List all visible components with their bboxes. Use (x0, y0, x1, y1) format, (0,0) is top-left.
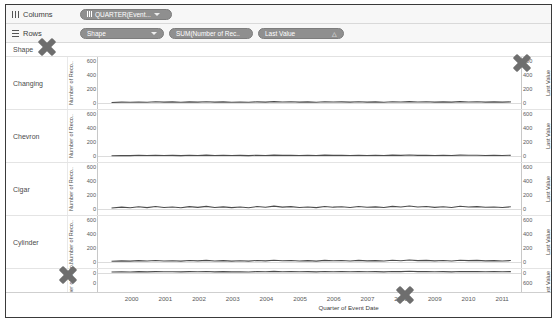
x-axis-ticks: 2000200120022003200420052006200720082009… (98, 295, 519, 304)
left-axis-partial[interactable]: Number of Reco.. 0 0 400 (68, 269, 98, 292)
right-axis-title: Last Value (545, 176, 551, 202)
x-axis-tick: 2001 (158, 295, 172, 302)
left-axis-title: Number of Reco.. (68, 262, 74, 292)
axis-tick: 0 (78, 280, 96, 286)
axis-tick: 400 (78, 178, 96, 184)
left-axis-ticks: 600 400 200 0 (78, 163, 96, 215)
x-axis-title: Quarter of Event Date (98, 304, 519, 311)
x-axis-title-text: Quarter of Event Date (318, 304, 378, 311)
left-axis-title: Number of Reco.. (68, 220, 74, 264)
tableau-worksheet: Columns QUARTER(Event... Rows Shape SUM(… (0, 0, 558, 329)
right-axis-changing[interactable]: Last Value 600 400 200 0 (521, 57, 551, 109)
quarter-event-date-pill[interactable]: QUARTER(Event... (80, 9, 172, 20)
left-axis-ticks: 600 400 200 0 (78, 110, 96, 162)
left-axis-cylinder[interactable]: Number of Reco.. 600 400 200 0 (68, 216, 98, 268)
right-axis-ticks: 600 400 200 0 (523, 110, 541, 162)
chevron-down-icon[interactable] (151, 32, 157, 35)
axis-tick: 0 (523, 153, 541, 159)
x-axis-tick: 2000 (125, 295, 139, 302)
line-series-chevron (98, 110, 521, 162)
row-header-changing[interactable]: Changing (6, 57, 68, 109)
x-axis[interactable]: 2000200120022003200420052006200720082009… (6, 292, 551, 317)
row-header-partial[interactable] (6, 269, 68, 292)
shape-field-header[interactable]: Shape (6, 46, 75, 53)
worksheet-frame: Columns QUARTER(Event... Rows Shape SUM(… (5, 4, 552, 318)
axis-tick: 200 (78, 139, 96, 145)
sum-number-of-records-pill-label: SUM(Number of Rec.. (176, 30, 240, 37)
left-axis-title: Number of Reco.. (68, 167, 74, 211)
line-series-changing (98, 57, 521, 109)
axis-tick: 400 (523, 125, 541, 131)
plot-changing[interactable] (98, 57, 521, 109)
rows-label-text: Rows (23, 29, 42, 38)
x-axis-tick: 2011 (496, 295, 509, 302)
left-axis-title: Number of Reco.. (68, 114, 74, 158)
right-axis-cigar[interactable]: Last Value 600 400 200 0 (521, 163, 551, 215)
axis-tick: 200 (78, 192, 96, 198)
right-axis-ticks: 0 600 400 (523, 269, 541, 292)
axis-tick: 400 (78, 231, 96, 237)
x-axis-tick: 2007 (361, 295, 375, 302)
shape-pill[interactable]: Shape (80, 28, 164, 39)
axis-tick: 0 (78, 153, 96, 159)
line-series-cigar (98, 163, 521, 215)
plot-partial[interactable] (98, 269, 521, 292)
plot-cigar[interactable] (98, 163, 521, 215)
axis-tick: 0 (523, 270, 541, 276)
pill-grip-icon (87, 11, 92, 17)
left-axis-ticks: 600 400 200 0 (78, 57, 96, 109)
axis-tick: 0 (523, 206, 541, 212)
axis-tick: 400 (523, 231, 541, 237)
axis-tick: 0 (78, 270, 96, 276)
right-axis-title: Last Value (545, 123, 551, 149)
warning-triangle-icon[interactable]: △ (332, 30, 337, 37)
pane-row-cigar: Cigar Number of Reco.. 600 400 200 0 (6, 163, 551, 216)
left-axis-cigar[interactable]: Number of Reco.. 600 400 200 0 (68, 163, 98, 215)
axis-tick: 400 (523, 72, 541, 78)
plot-cylinder[interactable] (98, 216, 521, 268)
columns-grip-icon (12, 11, 19, 18)
sum-number-of-records-pill[interactable]: SUM(Number of Rec.. (169, 28, 253, 39)
x-axis-tick: 2009 (428, 295, 442, 302)
axis-tick: 200 (523, 139, 541, 145)
axis-tick: 200 (523, 192, 541, 198)
row-header-cylinder[interactable]: Cylinder (6, 216, 68, 268)
columns-shelf[interactable]: Columns QUARTER(Event... (6, 5, 551, 24)
left-axis-chevron[interactable]: Number of Reco.. 600 400 200 0 (68, 110, 98, 162)
right-axis-cylinder[interactable]: Last Value 600 400 200 0 (521, 216, 551, 268)
rows-hamburger-icon (12, 30, 19, 37)
axis-tick: 0 (78, 259, 96, 265)
axis-tick: 600 (523, 164, 541, 170)
chevron-down-icon[interactable] (154, 13, 160, 16)
visualization-area: Shape Changing Number of Reco.. 600 400 … (6, 43, 551, 317)
axis-tick: 600 (523, 280, 541, 286)
pane-row-chevron: Chevron Number of Reco.. 600 400 200 0 (6, 110, 551, 163)
right-axis-title: Last Value (545, 229, 551, 255)
axis-tick: 600 (523, 217, 541, 223)
axis-tick: 600 (523, 111, 541, 117)
left-axis-changing[interactable]: Number of Reco.. 600 400 200 0 (68, 57, 98, 109)
right-axis-partial[interactable]: Last Value 0 600 400 (521, 269, 551, 292)
quarter-event-date-pill-label: QUARTER(Event... (95, 11, 151, 18)
axis-tick: 600 (523, 58, 541, 64)
right-axis-ticks: 600 400 200 0 (523, 216, 541, 268)
axis-tick: 600 (78, 111, 96, 117)
columns-shelf-label: Columns (6, 10, 80, 19)
rows-shelf[interactable]: Rows Shape SUM(Number of Rec.. Last Valu… (6, 24, 551, 43)
axis-tick: 600 (78, 58, 96, 64)
x-axis-tick: 2004 (260, 295, 274, 302)
row-header-cigar[interactable]: Cigar (6, 163, 68, 215)
last-value-pill[interactable]: Last Value △ (258, 28, 344, 39)
rows-shelf-label: Rows (6, 29, 80, 38)
axis-tick: 0 (78, 100, 96, 106)
plot-chevron[interactable] (98, 110, 521, 162)
right-axis-ticks: 600 400 200 0 (523, 57, 541, 109)
axis-tick: 600 (78, 217, 96, 223)
pane-row-cylinder: Cylinder Number of Reco.. 600 400 200 0 (6, 216, 551, 269)
row-header-chevron[interactable]: Chevron (6, 110, 68, 162)
x-axis-tick: 2002 (192, 295, 206, 302)
columns-label-text: Columns (23, 10, 53, 19)
right-axis-chevron[interactable]: Last Value 600 400 200 0 (521, 110, 551, 162)
right-axis-ticks: 600 400 200 0 (523, 163, 541, 215)
pane-row-changing: Changing Number of Reco.. 600 400 200 0 (6, 57, 551, 110)
